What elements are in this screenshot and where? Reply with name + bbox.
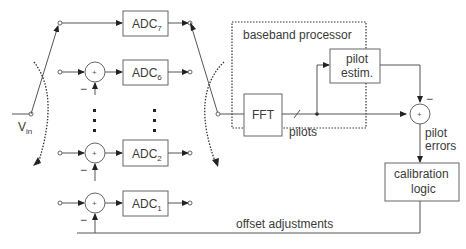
svg-text:logic: logic [411, 182, 436, 196]
svg-text:−: − [80, 213, 87, 227]
adc7-row: ADC7 [58, 11, 192, 36]
block-diagram: Vin ADC7 + − ADC6 + − [0, 0, 466, 249]
baseband-title: baseband processor [243, 28, 352, 42]
svg-text:estim.: estim. [341, 66, 373, 80]
svg-text:pilot: pilot [425, 126, 448, 140]
svg-text:Vin: Vin [18, 120, 32, 136]
input-switch-arc [34, 62, 48, 164]
adc6-row: + − ADC6 [58, 60, 192, 96]
adc2-row: + − ADC2 [58, 140, 192, 181]
svg-text:pilot: pilot [346, 52, 369, 66]
svg-text:−: − [426, 92, 433, 106]
svg-text:+: + [417, 110, 422, 119]
svg-text:FFT: FFT [252, 108, 275, 122]
ellipsis-dots [93, 109, 156, 132]
output-switch [190, 22, 224, 167]
svg-text:errors: errors [425, 139, 456, 153]
input-vin: Vin [12, 26, 58, 136]
svg-text:calibration: calibration [394, 167, 449, 181]
svg-text:−: − [80, 163, 87, 177]
svg-text:+: + [92, 199, 97, 208]
svg-text:+: + [92, 68, 97, 77]
svg-text:+: + [92, 149, 97, 158]
svg-text:−: − [80, 82, 87, 96]
offset-adjustments-label: offset adjustments [236, 217, 333, 231]
adc1-row: + − ADC1 [58, 191, 192, 233]
pilots-label: pilots [289, 125, 317, 139]
